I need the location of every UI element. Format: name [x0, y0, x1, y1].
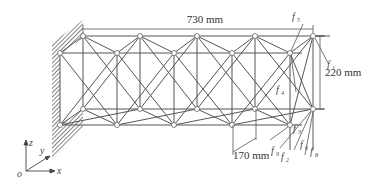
depth-dimension: 170 mm: [233, 149, 270, 161]
axis-y-label: y: [39, 145, 45, 156]
svg-text:f: f: [276, 84, 280, 95]
svg-text:f: f: [271, 145, 275, 156]
force-label-bottom-c: f 6: [300, 139, 308, 151]
axis-origin-label: o: [17, 168, 22, 179]
svg-text:6: 6: [305, 145, 308, 151]
svg-text:4: 4: [281, 90, 284, 96]
length-dimension: 730 mm: [187, 13, 224, 25]
truss-diagram: 730 mm 220 mm 170 mm f 5 f 1 f 4 f 3 f 9…: [0, 0, 373, 185]
svg-text:f: f: [292, 11, 296, 22]
force-label-bottom-b: f 2: [281, 151, 289, 163]
truss-figure: 730 mm 220 mm 170 mm f 5 f 1 f 4 f 3 f 9…: [0, 0, 373, 185]
svg-text:f: f: [300, 139, 304, 150]
fixed-wall-support: [52, 20, 83, 160]
svg-text:1: 1: [332, 65, 335, 71]
force-label-mid: f 4: [276, 84, 284, 96]
force-label-bottom-d: f 8: [310, 146, 318, 158]
truss-nodes: [58, 34, 316, 128]
svg-text:3: 3: [297, 129, 301, 135]
force-label-bottom-a: f 9: [271, 145, 279, 157]
svg-text:8: 8: [315, 152, 318, 158]
axis-x-label: x: [56, 165, 62, 176]
height-dimension: 220 mm: [325, 66, 362, 78]
axis-z-label: z: [28, 137, 33, 148]
svg-text:2: 2: [286, 157, 289, 163]
svg-text:5: 5: [297, 17, 300, 23]
svg-text:9: 9: [276, 151, 279, 157]
force-label-top: f 5: [292, 11, 300, 23]
svg-text:f: f: [281, 151, 285, 162]
